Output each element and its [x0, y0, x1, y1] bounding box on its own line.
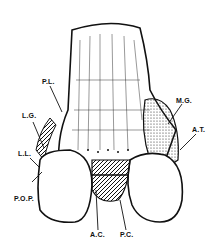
label-pc: P.C. — [120, 231, 134, 238]
label-ac: A.C. — [90, 231, 105, 238]
bone-figure: P.L. L.G. L.L. P.O.P. M.G. A.T. A.C. P.C… — [0, 0, 218, 250]
label-ll: L.L. — [18, 150, 31, 157]
label-mg: M.G. — [176, 97, 192, 104]
label-lg: L.G. — [22, 112, 36, 119]
label-pl: P.L. — [42, 78, 55, 85]
label-pop: P.O.P. — [14, 195, 34, 202]
label-at: A.T. — [192, 126, 205, 133]
bone-drawing — [0, 0, 218, 250]
